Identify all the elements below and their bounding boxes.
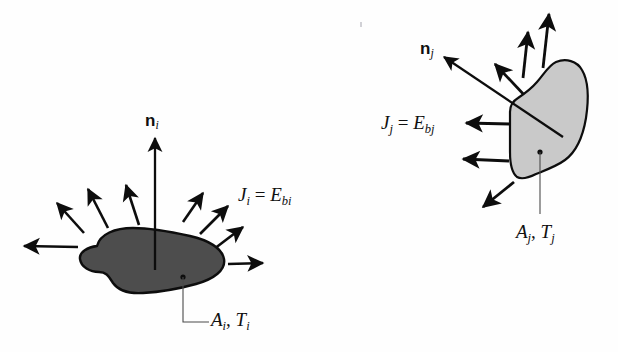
- surface-i-temp-symbol: T: [236, 309, 247, 330]
- surface-j-radiosity-label: Jj = Ebj: [381, 113, 435, 135]
- surface-j-normal-label: nj: [420, 40, 434, 60]
- surface-j-group: [444, 14, 588, 214]
- diagram-canvas: [0, 0, 618, 352]
- surface-i-radiosity-label: Ji = Ebi: [238, 185, 292, 207]
- surface-j-emissive-power-symbol: E: [413, 112, 425, 133]
- emission-arrow-j-6: [483, 182, 514, 207]
- surface-i-label-comma: ,: [226, 309, 236, 330]
- surface-j-normal-subscript: j: [430, 46, 433, 60]
- surface-i-group: [24, 138, 263, 322]
- radiation-diagram-figure: ni Ji = Ebi Ai, Ti nj Jj = Ebj Aj, Tj: [0, 0, 618, 352]
- emission-arrow-j-4: [466, 123, 511, 124]
- emission-arrow-i-6: [200, 206, 228, 234]
- surface-j-body: [510, 60, 588, 178]
- surface-j-area-temp-label: Aj, Tj: [516, 222, 555, 244]
- surface-j-temp-symbol: T: [541, 221, 552, 242]
- emission-arrow-i-3: [88, 189, 108, 228]
- emission-arrow-i-8: [228, 263, 263, 264]
- surface-j-temp-subscript: j: [551, 231, 554, 245]
- surface-i-temp-subscript: i: [246, 319, 249, 333]
- emission-arrow-j-5: [463, 159, 509, 161]
- emission-arrow-i-1: [24, 246, 78, 247]
- emission-arrow-j-1: [543, 14, 549, 68]
- emission-arrow-i-2: [57, 203, 84, 233]
- surface-i-area-symbol: A: [211, 309, 223, 330]
- surface-j-normal-symbol: n: [420, 39, 430, 58]
- surface-j-emissive-power-subscript: bj: [425, 122, 435, 136]
- surface-j-area-symbol: A: [516, 221, 528, 242]
- emission-arrow-i-5: [183, 193, 203, 222]
- surface-i-area-temp-label: Ai, Ti: [211, 310, 250, 332]
- surface-i-radiosity-equals: =: [250, 184, 270, 205]
- emission-arrow-j-3: [495, 64, 527, 98]
- surface-j-radiosity-equals: =: [393, 112, 413, 133]
- emission-arrow-i-7: [214, 227, 243, 249]
- surface-i-body: [80, 228, 224, 293]
- emission-arrow-i-4: [126, 185, 139, 225]
- surface-i-emissive-power-symbol: E: [270, 184, 282, 205]
- emission-arrow-j-2: [523, 32, 528, 78]
- surface-i-emissive-power-subscript: bi: [282, 194, 292, 208]
- surface-i-normal-label: ni: [145, 112, 159, 132]
- surface-j-label-comma: ,: [531, 221, 541, 242]
- surface-i-normal-subscript: i: [155, 118, 158, 132]
- surface-i-normal-symbol: n: [145, 111, 155, 130]
- scan-artifact-speck: [360, 22, 362, 27]
